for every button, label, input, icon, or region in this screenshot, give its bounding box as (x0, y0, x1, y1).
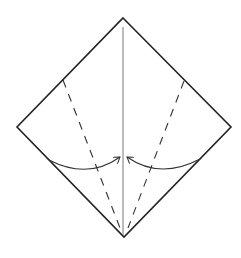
diagram-svg (0, 0, 241, 258)
origami-diagram (0, 0, 241, 258)
paper-outline (17, 18, 231, 237)
